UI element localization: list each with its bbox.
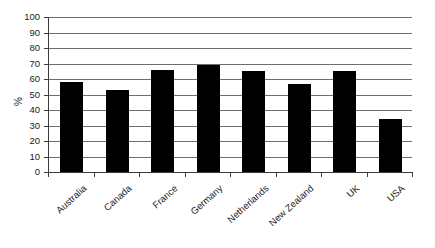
gridline	[49, 64, 412, 65]
gridline	[49, 79, 412, 80]
y-tick-label: 30	[0, 121, 40, 131]
x-tick-mark	[230, 172, 231, 177]
bar	[106, 90, 129, 172]
y-tick-label: 0	[0, 167, 40, 177]
bar-chart: % 0102030405060708090100 AustraliaCanada…	[0, 0, 435, 248]
bar	[60, 82, 83, 172]
x-tick-mark	[367, 172, 368, 177]
x-tick-mark	[48, 172, 49, 177]
gridline	[49, 33, 412, 34]
bar	[379, 119, 402, 172]
bar	[151, 70, 174, 172]
y-tick-label: 60	[0, 74, 40, 84]
plot-area	[48, 17, 412, 172]
x-tick-mark	[94, 172, 95, 177]
x-tick-mark	[321, 172, 322, 177]
bar	[197, 65, 220, 172]
gridline	[49, 157, 412, 158]
y-tick-label: 20	[0, 136, 40, 146]
y-tick-label: 40	[0, 105, 40, 115]
bar	[333, 71, 356, 172]
x-tick-mark	[139, 172, 140, 177]
gridline	[49, 48, 412, 49]
y-tick-label: 80	[0, 43, 40, 53]
x-tick-mark	[412, 172, 413, 177]
y-tick-label: 50	[0, 90, 40, 100]
bar	[242, 71, 265, 172]
gridline	[49, 17, 412, 18]
gridline	[49, 141, 412, 142]
gridline	[49, 126, 412, 127]
gridline	[49, 95, 412, 96]
x-tick-mark	[276, 172, 277, 177]
y-tick-label: 70	[0, 59, 40, 69]
y-tick-label: 90	[0, 28, 40, 38]
x-tick-mark	[185, 172, 186, 177]
bar	[288, 84, 311, 172]
y-tick-label: 100	[0, 12, 40, 22]
gridline	[49, 110, 412, 111]
y-tick-label: 10	[0, 152, 40, 162]
